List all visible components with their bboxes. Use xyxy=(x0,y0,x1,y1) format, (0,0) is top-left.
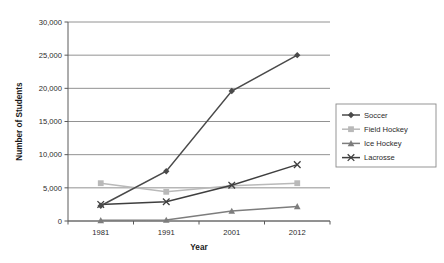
y-axis-tick-label: 15,000 xyxy=(39,117,62,126)
series-line xyxy=(101,55,298,206)
y-axis-tick-label: 10,000 xyxy=(39,150,62,159)
x-axis-tick-label: 1981 xyxy=(92,228,109,237)
x-axis-tick-label: 1991 xyxy=(158,228,175,237)
x-axis-tick-label: 2012 xyxy=(289,228,306,237)
line-chart: 05,00010,00015,00020,00025,00030,0001981… xyxy=(0,0,444,263)
y-axis-title: Number of Students xyxy=(15,82,24,161)
marker-diamond xyxy=(294,52,300,58)
series-soccer xyxy=(98,52,301,209)
y-axis-tick-label: 0 xyxy=(58,217,62,226)
chart-canvas: 05,00010,00015,00020,00025,00030,0001981… xyxy=(0,0,444,263)
marker-square xyxy=(163,189,169,195)
x-axis-title: Year xyxy=(190,243,208,252)
legend-label: Field Hockey xyxy=(364,125,408,134)
y-axis-tick-label: 30,000 xyxy=(39,18,62,27)
marker-square xyxy=(98,180,104,186)
series-ice-hockey xyxy=(97,203,300,223)
x-axis-tick-label: 2001 xyxy=(223,228,240,237)
marker-diamond xyxy=(98,203,104,209)
legend-label: Soccer xyxy=(364,111,388,120)
series-line xyxy=(101,206,298,220)
legend-label: Lacrosse xyxy=(364,153,395,162)
marker-square xyxy=(348,126,354,132)
y-axis-tick-label: 5,000 xyxy=(43,184,62,193)
marker-square xyxy=(294,180,300,186)
y-axis-tick-label: 25,000 xyxy=(39,51,62,60)
legend-label: Ice Hockey xyxy=(364,139,402,148)
y-axis-tick-label: 20,000 xyxy=(39,84,62,93)
